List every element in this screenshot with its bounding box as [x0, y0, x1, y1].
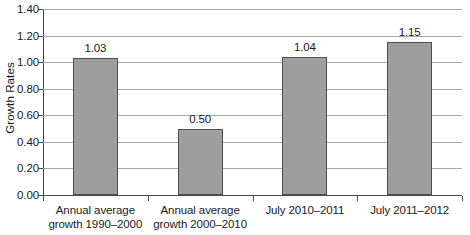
y-axis-tick-mark — [38, 115, 43, 116]
x-axis-tick-label-line: Annual average — [148, 203, 253, 217]
y-axis-tick-label: 1.20 — [5, 30, 39, 42]
y-axis-tick-label: 0.60 — [5, 109, 39, 121]
y-axis-tick-label: 0.40 — [5, 136, 39, 148]
bar — [387, 42, 432, 195]
y-axis-tick-label: 1.40 — [5, 3, 39, 15]
bar — [282, 57, 327, 195]
x-axis-tick-label-line: Annual average — [43, 203, 148, 217]
x-axis-tick-label: Annual averagegrowth 2000–2010 — [148, 203, 253, 231]
bar — [178, 129, 223, 195]
x-axis-tick-mark — [148, 196, 149, 201]
y-axis-tick-mark — [38, 168, 43, 169]
y-axis-tick-mark — [38, 142, 43, 143]
y-axis-tick-mark — [38, 89, 43, 90]
plot-area: 1.030.501.041.15 — [43, 9, 462, 195]
bar-value-label: 1.04 — [265, 41, 345, 53]
bar-chart: Growth Rates 0.000.200.400.600.801.001.2… — [0, 0, 470, 235]
bar-value-label: 1.03 — [55, 42, 135, 54]
x-axis-tick-label: July 2010–2011 — [253, 203, 358, 217]
x-axis-tick-label: July 2011–2012 — [357, 203, 462, 217]
bar-value-label: 1.15 — [370, 26, 450, 38]
x-axis-tick-mark — [43, 196, 44, 201]
x-axis-tick-label-line: growth 2000–2010 — [148, 217, 253, 231]
bar — [73, 58, 118, 195]
x-axis-tick-label-line: growth 1990–2000 — [43, 217, 148, 231]
gridline — [43, 9, 462, 10]
y-axis-tick-labels: 0.000.200.400.600.801.001.201.40 — [0, 0, 39, 235]
bar-value-label: 0.50 — [160, 113, 240, 125]
y-axis-tick-mark — [38, 36, 43, 37]
x-axis-tick-label-line: July 2010–2011 — [253, 203, 358, 217]
x-axis-tick-mark — [462, 196, 463, 201]
y-axis-tick-label: 0.00 — [5, 189, 39, 201]
x-axis-tick-mark — [357, 196, 358, 201]
y-axis-tick-mark — [38, 9, 43, 10]
x-axis-tick-label-line: July 2011–2012 — [357, 203, 462, 217]
y-axis-tick-label: 0.80 — [5, 83, 39, 95]
y-axis-tick-label: 0.20 — [5, 162, 39, 174]
y-axis-tick-label: 1.00 — [5, 56, 39, 68]
x-axis-tick-label: Annual averagegrowth 1990–2000 — [43, 203, 148, 231]
x-axis-tick-mark — [253, 196, 254, 201]
y-axis-tick-mark — [38, 62, 43, 63]
